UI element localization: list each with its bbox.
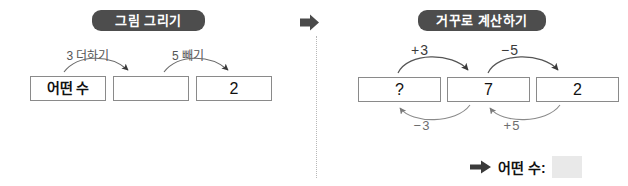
panel-title-reverse: 거꾸로 계산하기	[418, 10, 546, 31]
left-arrow-label-1: 3 더하기	[48, 46, 128, 63]
right-bottom-label-1: −3	[382, 118, 462, 133]
right-top-label-1: +3	[380, 42, 460, 58]
right-box-2: 7	[447, 77, 530, 102]
panel-divider	[316, 36, 317, 178]
answer-input-blank[interactable]	[552, 156, 582, 178]
right-box-1: ?	[358, 77, 441, 102]
left-box-1: 어떤 수	[30, 76, 106, 101]
answer-label: 어떤 수:	[498, 157, 546, 177]
right-box-3: 2	[536, 77, 619, 102]
left-box-3: 2	[196, 76, 272, 101]
answer-right-arrow-icon	[470, 160, 492, 174]
left-box-2	[113, 76, 189, 101]
worksheet-canvas: 그림 그리기 어떤 수 2 3 더하기 5 빼기 거꾸로 계산하기 ? 7 2 …	[0, 0, 628, 186]
left-arrow-label-2: 5 빼기	[148, 46, 228, 63]
answer-row: 어떤 수:	[470, 155, 582, 179]
right-curve-top-sub5	[488, 57, 558, 73]
right-top-label-2: −5	[470, 42, 550, 58]
right-curve-top-add3	[398, 57, 468, 73]
right-bottom-label-2: +5	[472, 118, 552, 133]
transition-right-arrow-icon	[300, 15, 319, 31]
panel-title-draw: 그림 그리기	[92, 10, 205, 31]
